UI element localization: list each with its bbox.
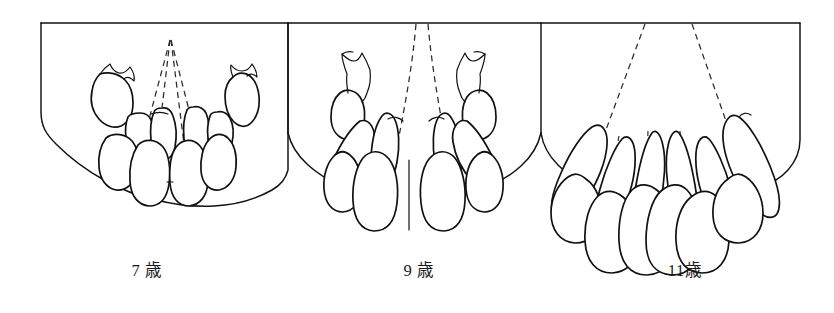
tooth-9-lower-left: [353, 152, 398, 231]
caption-panel-7: 7 歳: [8, 262, 286, 280]
tooth-7-lower-right: [201, 134, 236, 190]
panel-11-graphic: [541, 23, 800, 275]
cusp-tip-far-right-11: [739, 113, 751, 117]
panel-7-graphic: [41, 23, 288, 206]
caption-panel-11: 11歳: [546, 262, 824, 280]
panel-9-graphic: [288, 23, 541, 231]
tooth-7-lower-midleft: [130, 140, 170, 206]
tooth-9-lower-far-right: [466, 152, 503, 212]
caption-panel-9: 9 歳: [280, 262, 558, 280]
panel-captions: 7 歳 9 歳 11歳: [0, 262, 834, 302]
tooth-9-lower-right: [420, 152, 465, 231]
dental-development-figure: 7 歳 9 歳 11歳: [0, 0, 834, 313]
